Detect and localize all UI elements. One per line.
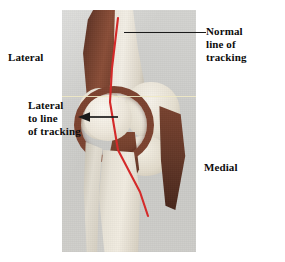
joint-line-marker xyxy=(62,96,196,97)
label-normal-line-of-tracking: Normal line of tracking xyxy=(206,25,247,64)
photo-grain-texture xyxy=(62,10,196,252)
label-lateral: Lateral xyxy=(8,51,44,64)
knee-photograph xyxy=(62,10,196,252)
knee-tracking-figure: Lateral Lateral to line of tracking Medi… xyxy=(0,0,285,262)
label-medial: Medial xyxy=(204,161,238,174)
arrow-lateral-to-line xyxy=(78,111,118,123)
label-lateral-to-line-of-tracking: Lateral to line of tracking xyxy=(28,99,81,138)
leader-line-normal-tracking xyxy=(124,32,206,33)
